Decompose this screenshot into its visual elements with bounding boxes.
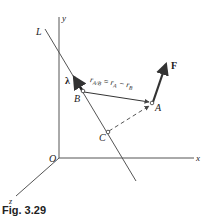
line-L-label: L: [35, 26, 42, 37]
point-C-label: C: [99, 132, 106, 143]
lambda-label: λ: [65, 75, 70, 86]
svg-text:rA/B = rA − rB: rA/B = rA − rB: [89, 75, 134, 91]
y-axis-label: y: [61, 13, 66, 23]
point-A-marker: [150, 101, 154, 105]
point-B-label: B: [74, 93, 80, 104]
x-axis-label: x: [195, 153, 200, 163]
point-C-marker: [106, 130, 110, 134]
point-B-marker: [81, 89, 85, 93]
force-F-label: F: [171, 60, 177, 71]
point-A-label: A: [154, 102, 162, 113]
lambda-unit-vector-arrow: [74, 77, 82, 90]
r-subscript-B: B: [129, 85, 134, 91]
figure-3-29-diagram: y x z O L B A C λ F rA/B = rA − rB: [0, 0, 206, 222]
position-vector-equation: rA/B = rA − rB: [89, 75, 134, 91]
force-F-arrow: [153, 64, 166, 102]
dashed-line-C-A: [109, 106, 149, 131]
position-vector-arrow: [84, 92, 149, 102]
figure-caption: Fig. 3.29: [2, 204, 46, 216]
origin-label: O: [49, 153, 56, 164]
